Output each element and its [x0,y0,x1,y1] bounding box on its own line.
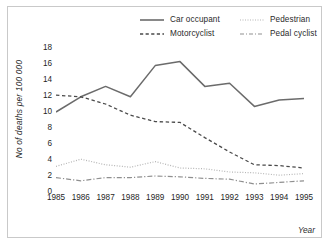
y-axis-ticks: 024681012141618 [36,48,52,192]
y-tick-label: 12 [36,92,52,100]
y-tick-label: 10 [36,108,52,116]
legend-label-pedal-cyclist: Pedal cyclist [270,29,317,38]
series-line-pedal-cyclist [56,176,304,184]
legend-label-pedestrian: Pedestrian [270,15,310,24]
y-tick-label: 14 [36,76,52,84]
series-canvas [56,48,304,192]
chart-legend: Car occupant Motorcyclist Pedestrian [140,12,320,42]
series-line-motorcyclist [56,95,304,168]
legend-item-motorcyclist: Motorcyclist [140,27,236,40]
y-tick-label: 2 [36,172,52,180]
legend-swatch-dashdot-icon [240,29,264,39]
y-tick-label: 18 [36,44,52,52]
x-axis-ticks: 1985198619871988198919901991199219931994… [56,194,304,206]
chart-figure: Car occupant Motorcyclist Pedestrian [0,0,329,245]
plot-area [56,48,304,192]
legend-swatch-dashed-icon [140,29,164,39]
y-tick-label: 16 [36,60,52,68]
legend-label-car-occupant: Car occupant [170,15,220,24]
legend-label-motorcyclist: Motorcyclist [170,29,214,38]
legend-swatch-dotted-icon [240,15,264,25]
series-line-pedestrian [56,159,304,175]
y-tick-label: 8 [36,124,52,132]
legend-swatch-solid-icon [140,15,164,25]
legend-item-pedestrian: Pedestrian [240,13,320,26]
y-axis-label: No of deaths per 100 000 [14,44,24,174]
y-tick-label: 6 [36,140,52,148]
x-axis-label: Year [298,225,315,235]
series-line-car-occupant [56,62,304,112]
y-tick-label: 4 [36,156,52,164]
legend-item-car-occupant: Car occupant [140,13,236,26]
x-tick-label: 1995 [289,194,319,202]
legend-item-pedal-cyclist: Pedal cyclist [240,27,320,40]
